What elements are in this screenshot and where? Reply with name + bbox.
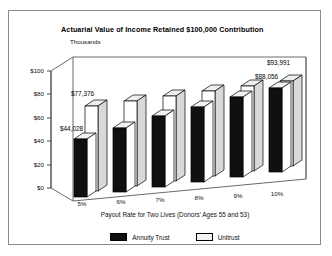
bar-group-8pct: [191, 85, 224, 182]
bar-group-6pct: [113, 95, 146, 192]
x-tick-label-10pct: 10%: [271, 190, 284, 197]
y-tick-label-40: $40: [34, 137, 45, 144]
legend-swatch-annuity-trust: [110, 233, 127, 241]
x-tick-label-9pct: 9%: [234, 192, 243, 199]
y-tick-label-0: $0: [37, 184, 44, 191]
bar-group-7pct: [152, 90, 185, 187]
chart-legend: Annuity Trust Unitrust: [9, 233, 332, 241]
bar-annuity-8pct[interactable]: [191, 101, 213, 182]
x-tick-label-7pct: 7%: [156, 196, 165, 203]
legend-item-annuity-trust[interactable]: Annuity Trust: [110, 233, 169, 241]
bar-annuity-9pct[interactable]: [230, 91, 252, 177]
bar-chart-svg: $100 $80 $60 $40 $20 $0 $44: [19, 33, 319, 208]
x-tick-label-8pct: 8%: [195, 194, 204, 201]
y-tick-label-60: $60: [34, 114, 45, 121]
chart-frame: Actuarial Value of Income Retained $100,…: [8, 10, 321, 245]
x-axis-title: Payout Rate for Two Lives (Donors' Ages …: [9, 211, 332, 218]
bar-annuity-7pct[interactable]: [152, 110, 174, 187]
data-label-annuity-5pct: $44,028: [60, 125, 84, 132]
legend-label-annuity-trust: Annuity Trust: [132, 234, 169, 241]
chart-plot-area: $100 $80 $60 $40 $20 $0 $44: [19, 33, 319, 208]
legend-label-unitrust: Unitrust: [218, 234, 240, 241]
legend-swatch-unitrust: [196, 233, 213, 241]
data-label-unitrust-5pct: $77,376: [71, 90, 95, 97]
x-tick-label-6pct: 6%: [117, 198, 126, 205]
y-tick-label-20: $20: [34, 161, 45, 168]
bar-group-9pct: [230, 80, 263, 177]
data-label-annuity-10pct: $88,056: [255, 73, 279, 80]
y-tick-label-80: $80: [34, 90, 45, 97]
x-tick-label-5pct: 5%: [78, 200, 87, 207]
bar-annuity-5pct[interactable]: [74, 133, 96, 197]
bar-annuity-6pct[interactable]: [113, 122, 135, 192]
y-tick-label-100: $100: [30, 67, 44, 74]
legend-item-unitrust[interactable]: Unitrust: [196, 233, 240, 241]
data-label-unitrust-10pct: $93,991: [267, 59, 291, 66]
bar-annuity-10pct[interactable]: [269, 82, 291, 172]
bar-group-5pct: $44,028 $77,376: [60, 90, 107, 197]
